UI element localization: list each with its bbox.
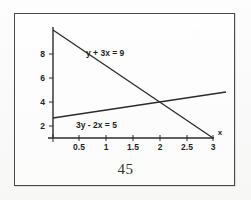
x-tick-label-1: 1 — [104, 142, 109, 151]
equation-label-line-2: 3y - 2x = 5 — [76, 120, 117, 130]
x-tick-label-2-5: 2.5 — [181, 142, 193, 151]
coordinate-plot: 2 4 6 8 0.5 1 1.5 2 2.5 3 x y + 3x = 9 — [15, 14, 236, 151]
y-tick-label-4: 4 — [40, 97, 45, 107]
y-tick-label-6: 6 — [40, 73, 45, 83]
x-tick-label-3: 3 — [211, 142, 216, 151]
x-tick-label-2: 2 — [158, 142, 163, 151]
y-tick-label-8: 8 — [40, 49, 45, 59]
equation-label-line-1: y + 3x = 9 — [86, 48, 125, 58]
line-3y-minus-2x-equals-5 — [53, 92, 226, 118]
page-number-area: 45 — [15, 160, 236, 178]
x-axis-name: x — [218, 128, 223, 137]
y-tick-label-2: 2 — [40, 121, 45, 131]
figure-graph: 2 4 6 8 0.5 1 1.5 2 2.5 3 x y + 3x = 9 — [15, 14, 236, 151]
scanned-page: 2 4 6 8 0.5 1 1.5 2 2.5 3 x y + 3x = 9 — [0, 0, 251, 200]
page-number: 45 — [118, 161, 134, 177]
page-border-frame: 2 4 6 8 0.5 1 1.5 2 2.5 3 x y + 3x = 9 — [14, 13, 235, 186]
x-tick-label-0-5: 0.5 — [73, 142, 85, 151]
x-tick-label-1-5: 1.5 — [127, 142, 139, 151]
